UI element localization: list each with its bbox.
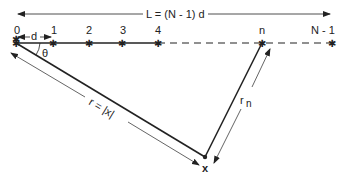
node-label-4: 4 <box>155 24 161 36</box>
node-3: ✱ <box>118 38 126 49</box>
svg-text:✱: ✱ <box>118 38 126 49</box>
point-x-label: x <box>202 162 209 174</box>
angle-arc <box>36 43 40 55</box>
rn-dimension: r n <box>214 49 270 163</box>
rn-subscript: n <box>246 98 252 109</box>
node-label-1: 1 <box>51 24 57 36</box>
node-label-n: n <box>259 24 265 36</box>
array-nodes: ✱ ✱ ✱ ✱ ✱ ✱ ✱ ✱ <box>12 34 336 49</box>
node-label-N-1: N - 1 <box>311 24 335 36</box>
node-label-0: 0 <box>14 24 20 36</box>
svg-text:✱: ✱ <box>154 38 162 49</box>
node-label-2: 2 <box>86 24 92 36</box>
svg-text:✱: ✱ <box>328 38 336 49</box>
svg-text:✱: ✱ <box>49 38 57 49</box>
length-label: L = (N - 1) d <box>146 8 205 20</box>
array-diagram: L = (N - 1) d d ✱ ✱ ✱ ✱ ✱ ✱ ✱ ✱ 0 1 2 3 … <box>0 0 353 179</box>
vector-rn <box>205 43 262 157</box>
node-2: ✱ <box>85 38 93 49</box>
node-4: ✱ <box>154 38 162 49</box>
vector-r <box>16 43 205 157</box>
point-x-dot <box>203 155 207 159</box>
angle-label: θ <box>42 47 48 59</box>
spacing-label: d <box>31 30 37 42</box>
rn-label: r <box>240 94 244 106</box>
svg-text:✱: ✱ <box>85 38 93 49</box>
node-N-1: ✱ <box>328 38 336 49</box>
spacing-dimension: d <box>18 30 51 42</box>
r-dimension: r = |x| <box>11 53 199 165</box>
length-dimension: L = (N - 1) d <box>18 8 330 20</box>
r-label: r = |x| <box>87 95 117 119</box>
node-1: ✱ <box>49 38 57 49</box>
node-label-3: 3 <box>120 24 126 36</box>
